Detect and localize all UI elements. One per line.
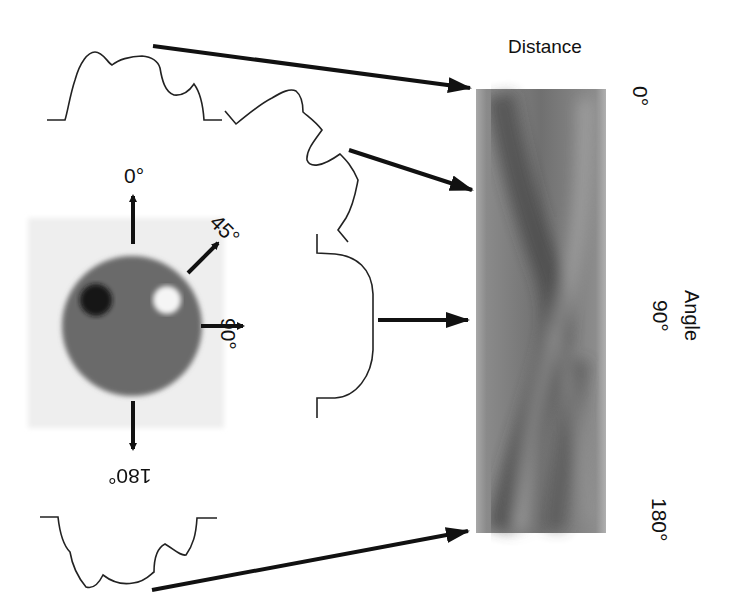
arrow-profile-45: [349, 150, 472, 190]
sinogram-angle-90-tick: 90°: [648, 300, 672, 332]
arrow-profile-0: [153, 46, 470, 88]
sinogram-image: [476, 89, 606, 533]
phantom-image: [28, 218, 224, 428]
sinogram-angle-label: Angle: [680, 290, 703, 341]
profile-180-deg: [40, 517, 217, 588]
profile-90-deg: [317, 234, 373, 418]
sinogram-angle-180-tick: 180°: [647, 498, 671, 541]
sinogram-distance-label: Distance: [508, 36, 582, 58]
phantom-angle-0-label: 0°: [124, 164, 144, 188]
profile-0-deg: [47, 52, 222, 120]
radon-transform-diagram: 0° 45° 90° 180° Distance 0° Angle 90° 18…: [0, 0, 730, 612]
diagram-graphics: [0, 0, 730, 612]
phantom-angle-180-label: 180°: [108, 464, 151, 488]
phantom-angle-90-label: 90°: [216, 318, 240, 350]
arrow-profile-180: [152, 531, 468, 590]
sinogram-angle-0-tick: 0°: [628, 86, 652, 106]
profile-45-deg: [225, 90, 358, 242]
